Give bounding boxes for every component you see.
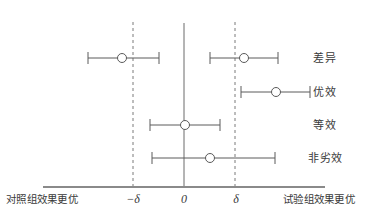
interval-row-equivalence — [150, 119, 220, 131]
interval-difference-left — [88, 52, 159, 64]
forest-plot — [0, 0, 369, 218]
interval-point-marker — [181, 121, 190, 130]
axis-label-control-better: 对照组效果更优 — [6, 194, 78, 205]
row-label-equivalence: 等效 — [313, 120, 336, 131]
interval-row-noninferiority — [152, 152, 275, 164]
x-tick-label-plus-delta: δ — [226, 193, 246, 205]
row-label-superiority: 优效 — [313, 87, 336, 98]
row-label-noninferiority: 非劣效 — [308, 153, 343, 164]
row-label-difference: 差异 — [313, 53, 336, 64]
interval-difference-right — [210, 52, 278, 64]
interval-point-marker — [272, 88, 281, 97]
interval-point-marker — [118, 54, 127, 63]
axis-label-treatment-better: 试验组效果更优 — [283, 194, 355, 205]
interval-row-difference — [88, 52, 278, 64]
interval-row-superiority — [241, 86, 310, 98]
x-tick-label-minus-delta: −δ — [123, 193, 143, 205]
reference-lines — [133, 22, 235, 188]
interval-point-marker — [240, 54, 249, 63]
x-tick-label-zero: 0 — [174, 193, 194, 205]
interval-point-marker — [206, 154, 215, 163]
